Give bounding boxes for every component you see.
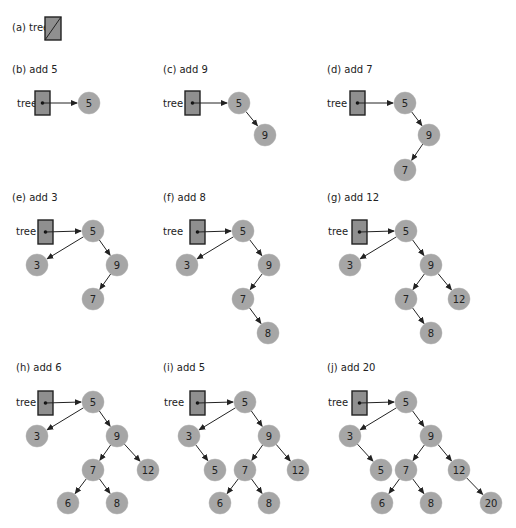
edge-arrow [124, 444, 140, 461]
edge-arrow [389, 479, 399, 493]
panels-layer: (a) tree(b) add 5tree5(c) add 9tree59(d)… [12, 17, 502, 514]
tree-node: 5 [234, 391, 256, 413]
edge-arrow [227, 479, 238, 494]
panel-label: (d) add 7 [327, 64, 373, 75]
node-value: 5 [240, 226, 246, 237]
edge-arrow [251, 411, 262, 426]
tree-node: 5 [395, 220, 417, 242]
tree-node: 5 [394, 92, 416, 114]
edge-arrow [413, 308, 424, 323]
node-value: 5 [212, 465, 218, 476]
node-value: 5 [86, 98, 92, 109]
tree-variable-label: tree [164, 397, 184, 408]
node-value: 20 [485, 498, 498, 509]
node-value: 7 [403, 294, 409, 305]
tree-node: 5 [204, 459, 226, 481]
tree-node: 8 [258, 492, 280, 514]
edge-arrow [412, 112, 422, 126]
tree-node: 9 [106, 425, 128, 447]
tree-variable-label: tree [17, 98, 37, 109]
node-value: 7 [242, 465, 248, 476]
tree-node: 9 [420, 425, 442, 447]
node-value: 5 [90, 226, 96, 237]
tree-node: 12 [137, 459, 159, 481]
edge-arrow [413, 479, 424, 494]
node-value: 9 [266, 431, 272, 442]
tree-variable-label: tree [16, 226, 36, 237]
panel-e: (e) add 3tree5397 [12, 192, 128, 310]
node-value: 6 [217, 498, 223, 509]
panel-label: (f) add 8 [163, 192, 206, 203]
node-value: 6 [65, 498, 71, 509]
edge-arrow [438, 273, 451, 289]
tree-node: 20 [480, 492, 502, 514]
node-value: 5 [242, 397, 248, 408]
node-value: 5 [403, 226, 409, 237]
tree-node: 6 [371, 492, 393, 514]
tree-node: 6 [209, 492, 231, 514]
tree-node: 12 [287, 459, 309, 481]
node-value: 7 [403, 465, 409, 476]
bst-insertion-diagram: (a) tree(b) add 5tree5(c) add 9tree59(d)… [0, 0, 516, 528]
node-value: 3 [186, 431, 192, 442]
edge-arrow [357, 444, 373, 461]
edge-arrow [250, 240, 262, 256]
tree-node: 5 [370, 459, 392, 481]
node-value: 3 [34, 260, 40, 271]
node-value: 5 [402, 98, 408, 109]
panel-c: (c) add 9tree59 [163, 64, 276, 146]
edge-arrow [438, 444, 451, 460]
tree-node: 7 [395, 288, 417, 310]
tree-node: 9 [258, 425, 280, 447]
panel-label: (c) add 9 [163, 64, 208, 75]
edge-arrow [75, 479, 86, 494]
tree-variable-label: tree [328, 226, 348, 237]
node-value: 9 [428, 431, 434, 442]
tree-node: 7 [82, 288, 104, 310]
tree-node: 6 [57, 492, 79, 514]
panel-label: (h) add 6 [16, 362, 62, 373]
edge-arrow [276, 444, 290, 461]
tree-node: 5 [82, 391, 104, 413]
node-value: 3 [184, 260, 190, 271]
node-value: 8 [428, 498, 434, 509]
node-value: 8 [428, 328, 434, 339]
tree-node: 12 [448, 288, 470, 310]
tree-node: 7 [232, 288, 254, 310]
node-value: 9 [266, 260, 272, 271]
panel-j: (j) add 20tree53957126820 [327, 362, 502, 514]
edge-arrow [99, 411, 110, 426]
tree-node: 3 [339, 254, 361, 276]
node-value: 9 [114, 260, 120, 271]
node-value: 8 [266, 498, 272, 509]
node-value: 5 [403, 397, 409, 408]
tree-node: 5 [395, 391, 417, 413]
node-value: 9 [428, 260, 434, 271]
panel-g: (g) add 12tree5397128 [327, 192, 470, 344]
node-value: 6 [379, 498, 385, 509]
panel-f: (f) add 8tree53978 [163, 192, 280, 344]
tree-node: 5 [228, 92, 250, 114]
tree-node: 8 [420, 492, 442, 514]
node-value: 8 [265, 328, 271, 339]
tree-node: 3 [26, 254, 48, 276]
tree-node: 8 [420, 322, 442, 344]
tree-node: 7 [395, 459, 417, 481]
edge-arrow [413, 411, 424, 426]
tree-node: 9 [106, 254, 128, 276]
panel-i: (i) add 5tree539571268 [163, 362, 309, 514]
panel-d: (d) add 7tree597 [327, 64, 440, 181]
node-value: 3 [34, 431, 40, 442]
node-value: 5 [378, 465, 384, 476]
panel-label: (a) tree [12, 22, 49, 33]
panel-a: (a) tree [12, 17, 61, 40]
node-value: 12 [142, 465, 155, 476]
node-value: 12 [453, 294, 466, 305]
node-value: 7 [90, 465, 96, 476]
node-value: 12 [453, 465, 466, 476]
edge-arrow [467, 478, 483, 494]
edge-arrow [413, 240, 424, 255]
node-value: 5 [236, 98, 242, 109]
tree-node: 3 [178, 425, 200, 447]
node-value: 12 [292, 465, 305, 476]
